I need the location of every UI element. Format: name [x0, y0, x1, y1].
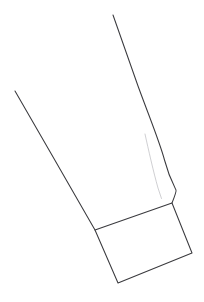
- drawing-canvas: [0, 0, 204, 302]
- canvas-background: [0, 0, 204, 302]
- line-art-svg: [0, 0, 204, 302]
